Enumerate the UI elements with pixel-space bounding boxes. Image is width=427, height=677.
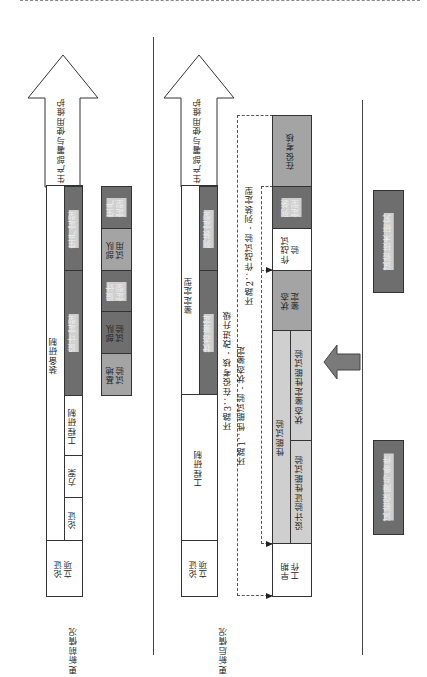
after-appraisal-label: 鉴定定型 <box>181 270 199 320</box>
support-test-technology-research: 试验技术研究 <box>373 190 404 293</box>
loop-1-label: 环路1：性能试验 - 状态鉴定 <box>236 340 250 470</box>
after-arrow-label: 生产部署与使用维护 <box>181 95 217 185</box>
support-arrow-icon <box>323 344 361 380</box>
after-state-appraisal: 状态鉴定 <box>199 270 218 395</box>
loop-3-label: 环路3：在役考核 - 改进升级 <box>222 310 236 430</box>
support-divider-line <box>362 100 363 655</box>
after-test-fielding: 列装 定型 <box>272 186 312 229</box>
before-test-troop: 部队 试验 <box>101 311 132 354</box>
support-test-guarantee-conditions: 试验保障与条件 <box>373 440 404 535</box>
after-test-performance: 性能试验 <box>272 330 291 544</box>
after-test-in-service: 在役考核 <box>272 115 312 187</box>
before-test-base: 基地 试验 <box>101 353 132 396</box>
before-stage-scheme: 方案 <box>64 455 83 498</box>
after-test-design-verification: 设计验证性能试验 <box>290 440 312 544</box>
before-stage-production-finalization: 生产定型 <box>64 186 83 271</box>
before-development-label: 装备研制 <box>46 330 64 380</box>
after-engineering: 工程研制 <box>181 394 218 541</box>
after-fielding-finalization: 列装定型 <box>199 186 218 271</box>
after-caption: 更新后情况 <box>210 630 240 670</box>
before-test-troop-trial: 部队 试用 <box>101 228 132 271</box>
after-project-approval: 论证 立项 <box>181 540 218 597</box>
before-test-production-finalization: 生产 定型 <box>101 186 132 229</box>
before-arrow-label: 生产部署与使用维护 <box>45 95 81 185</box>
before-caption: 更新前情况 <box>60 630 90 670</box>
after-test-combat: 作战试 验 <box>272 228 312 271</box>
top-dashed-border <box>20 0 420 1</box>
loop-2-label: 环路2：作战试验 - 列装定型 <box>244 190 258 300</box>
divider-line <box>153 37 154 655</box>
after-test-state-appraisal: 状态 鉴定 <box>272 270 312 331</box>
before-stage-demonstration: 论证 <box>64 497 83 541</box>
before-stage-design-finalization: 设计定型 <box>64 270 83 396</box>
after-test-early-work: 早期 工作 <box>272 543 312 597</box>
before-test-design-finalization: 设计 定型 <box>101 270 132 312</box>
before-stage-project-approval: 论证 立项 <box>46 540 83 597</box>
after-test-state-verification: 状态鉴定性能试验 <box>290 330 312 441</box>
before-stage-engineering: 工程研制 <box>64 395 83 456</box>
